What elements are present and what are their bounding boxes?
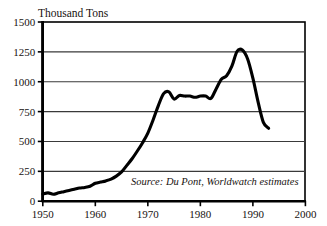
y-tick-label-250: 250 bbox=[19, 165, 36, 177]
x-tick-label-1970: 1970 bbox=[137, 208, 160, 220]
line-chart: 0250500750100012501500 19501960197019801… bbox=[0, 0, 327, 226]
y-tick-label-0: 0 bbox=[30, 195, 36, 207]
y-tick-label-1000: 1000 bbox=[13, 76, 36, 88]
chart-title: Thousand Tons bbox=[38, 7, 109, 19]
y-tick-label-1250: 1250 bbox=[13, 46, 36, 58]
source-annotation: Source: Du Pont, Worldwatch estimates bbox=[131, 176, 299, 187]
chart-figure: 0250500750100012501500 19501960197019801… bbox=[0, 0, 327, 226]
x-tick-label-1980: 1980 bbox=[189, 208, 212, 220]
y-tick-label-500: 500 bbox=[19, 135, 36, 147]
y-tick-label-750: 750 bbox=[19, 106, 36, 118]
x-tick-label-2000: 2000 bbox=[294, 208, 317, 220]
y-tick-label-1500: 1500 bbox=[13, 16, 36, 28]
x-tick-label-1960: 1960 bbox=[84, 208, 107, 220]
x-tick-label-1990: 1990 bbox=[242, 208, 265, 220]
x-tick-label-1950: 1950 bbox=[32, 208, 55, 220]
